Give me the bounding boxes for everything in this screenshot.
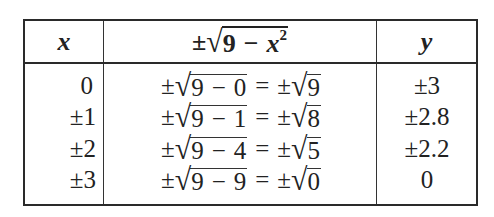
radicand-result: 9 xyxy=(307,74,322,101)
radical: √9−1 xyxy=(175,102,248,132)
minus-sign: − xyxy=(244,29,259,58)
radical: √9 xyxy=(291,71,321,101)
minus-sign: − xyxy=(212,74,226,101)
radicand-a: 9 xyxy=(191,137,204,164)
exponent: 2 xyxy=(280,27,288,43)
cell-y: ±2.2 xyxy=(378,133,476,165)
radical: √0 xyxy=(291,165,321,195)
header-x: x xyxy=(25,21,103,62)
radicand-b: 0 xyxy=(234,74,247,101)
minus-sign: − xyxy=(212,105,226,132)
plus-minus-sign: ± xyxy=(161,103,175,131)
radical-icon: √ xyxy=(291,70,307,102)
cell-expression: ± √9−0 = ± √9 xyxy=(105,70,377,102)
cell-y: ±3 xyxy=(378,70,476,102)
plus-minus-sign: ± xyxy=(277,72,291,100)
radical-icon: √ xyxy=(175,133,191,165)
radicand-number: 9 xyxy=(223,29,236,58)
cell-x: ±3 xyxy=(25,165,104,197)
radicand-b: 1 xyxy=(234,105,247,132)
plus-minus-sign: ± xyxy=(161,166,175,194)
cell-x: 0 xyxy=(25,70,104,102)
radical-icon: √ xyxy=(175,165,191,197)
radical-icon: √ xyxy=(291,165,307,197)
radicand-result: 5 xyxy=(307,137,322,164)
plus-minus-sign: ± xyxy=(277,135,291,163)
table-row: ±3 ± √9−9 = ± √0 0 xyxy=(25,165,476,197)
radicand-result: 0 xyxy=(307,168,322,195)
table-body: 0 ± √9−0 = ± √9 ±3 ±1 ± √9−1 = ± √8 ±2.8 xyxy=(25,64,476,196)
minus-sign: − xyxy=(212,137,226,164)
plus-minus-sign: ± xyxy=(277,103,291,131)
radical: √5 xyxy=(291,134,321,164)
table-row: 0 ± √9−0 = ± √9 ±3 xyxy=(25,70,476,102)
equals-sign: = xyxy=(255,72,269,100)
radical: √9−4 xyxy=(175,134,248,164)
equals-sign: = xyxy=(255,166,269,194)
radicand: 9−x2 xyxy=(222,26,288,57)
radical-icon: √ xyxy=(175,102,191,134)
radical: √8 xyxy=(291,102,321,132)
radical-icon: √ xyxy=(291,133,307,165)
radicand: 9−0 xyxy=(190,74,247,101)
table-header: x ± √ 9−x2 y xyxy=(25,21,476,64)
cell-y: 0 xyxy=(378,165,476,197)
table-row: ±1 ± √9−1 = ± √8 ±2.8 xyxy=(25,102,476,134)
cell-y: ±2.8 xyxy=(378,102,476,134)
cell-expression: ± √9−4 = ± √5 xyxy=(105,133,377,165)
plus-minus-sign: ± xyxy=(277,166,291,194)
radical: √ 9−x2 xyxy=(206,26,288,57)
radicand-result: 8 xyxy=(307,105,322,132)
radicand-b: 4 xyxy=(234,137,247,164)
radical: √9−9 xyxy=(175,165,248,195)
radicand: 9−1 xyxy=(190,105,247,132)
radical-icon: √ xyxy=(291,102,307,134)
plus-minus-sign: ± xyxy=(192,27,206,57)
header-y: y xyxy=(377,21,476,62)
radical-icon: √ xyxy=(175,70,191,102)
plus-minus-sign: ± xyxy=(161,135,175,163)
equals-sign: = xyxy=(255,135,269,163)
values-table: x ± √ 9−x2 y 0 ± √9−0 = ± √9 ±3 xyxy=(23,19,478,206)
radical: √9−0 xyxy=(175,71,248,101)
radical-icon: √ xyxy=(206,26,222,58)
table-row: ±2 ± √9−4 = ± √5 ±2.2 xyxy=(25,133,476,165)
radicand-a: 9 xyxy=(191,74,204,101)
equals-sign: = xyxy=(255,103,269,131)
radicand-b: 9 xyxy=(234,168,247,195)
radicand-a: 9 xyxy=(191,168,204,195)
radicand: 9−4 xyxy=(190,137,247,164)
minus-sign: − xyxy=(212,168,226,195)
cell-expression: ± √9−1 = ± √8 xyxy=(105,102,377,134)
plus-minus-sign: ± xyxy=(161,72,175,100)
cell-expression: ± √9−9 = ± √0 xyxy=(105,165,377,197)
radicand: 9−9 xyxy=(190,168,247,195)
radicand-variable: x xyxy=(267,29,280,58)
header-expression: ± √ 9−x2 xyxy=(104,21,376,62)
cell-x: ±1 xyxy=(25,102,104,134)
radicand-a: 9 xyxy=(191,105,204,132)
cell-x: ±2 xyxy=(25,133,104,165)
